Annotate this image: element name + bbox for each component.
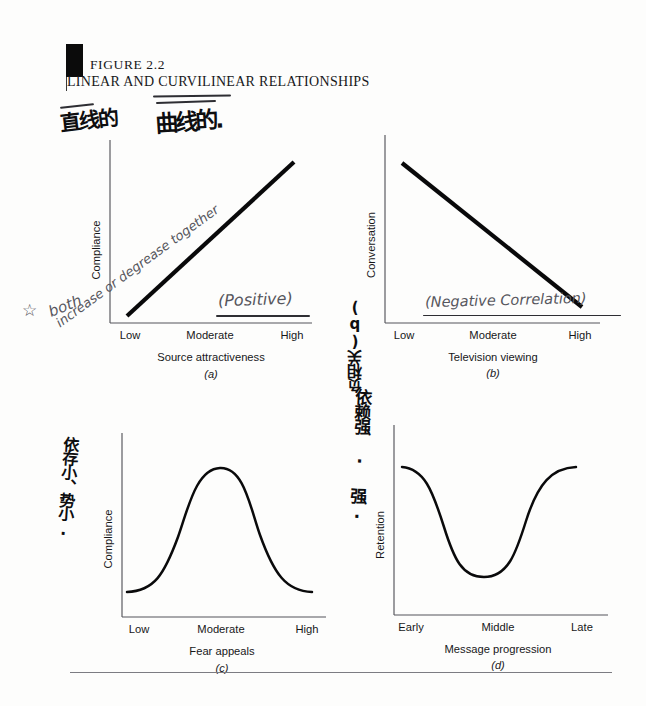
chart-c-tick-moderate: Moderate bbox=[197, 623, 244, 635]
chart-d-panel-letter: (d) bbox=[491, 659, 505, 671]
chart-c-data-curve bbox=[127, 468, 312, 592]
chart-c-tick-high: High bbox=[295, 623, 318, 635]
chart-panel-a: Compliance Low Moderate High Source attr… bbox=[84, 138, 324, 378]
figure-header: FIGURE 2.2 LINEAR AND CURVILINEAR RELATI… bbox=[66, 44, 466, 98]
chart-b-data-line bbox=[402, 163, 582, 307]
chart-d-tick-early: Early bbox=[398, 621, 424, 633]
chart-panel-b: Conversation Low Moderate High Televisio… bbox=[360, 130, 610, 378]
header-black-bar-icon bbox=[66, 44, 83, 77]
chart-a-data-line bbox=[127, 162, 294, 316]
chart-d-x-axis-label: Message progression bbox=[445, 643, 552, 655]
figure-title: LINEAR AND CURVILINEAR RELATIONSHIPS bbox=[67, 74, 370, 90]
chart-a-tick-low: Low bbox=[120, 329, 141, 341]
chart-a-y-axis-label: Compliance bbox=[90, 220, 102, 279]
handwritten-underline-positive bbox=[216, 315, 310, 317]
chart-a-x-axis-label: Source attractiveness bbox=[157, 351, 265, 363]
chart-d-data-curve bbox=[402, 467, 576, 577]
chart-d-y-axis-label: Retention bbox=[374, 511, 386, 559]
handwritten-star-a: ☆ bbox=[22, 300, 37, 320]
handwritten-note-b-vertical-cjk: 负相关(b) bbox=[344, 300, 365, 393]
handwritten-note-curvilinear-cjk: 曲线的. bbox=[154, 101, 222, 140]
chart-b-tick-high: High bbox=[568, 329, 591, 341]
chart-d-tick-middle: Middle bbox=[482, 621, 515, 633]
chart-panel-d: Retention Early Middle Late Message prog… bbox=[368, 417, 618, 669]
chart-d-tick-late: Late bbox=[571, 621, 593, 633]
chart-c-tick-low: Low bbox=[129, 623, 150, 635]
chart-b-tick-low: Low bbox=[394, 329, 415, 341]
chart-a-tick-high: High bbox=[280, 329, 303, 341]
chart-a-panel-letter: (a) bbox=[204, 368, 218, 380]
chart-c-x-axis-label: Fear appeals bbox=[189, 645, 255, 657]
figure-page: FIGURE 2.2 LINEAR AND CURVILINEAR RELATI… bbox=[0, 0, 646, 706]
handwritten-note-both: both bbox=[46, 291, 84, 320]
figure-number: FIGURE 2.2 bbox=[90, 57, 165, 73]
handwritten-note-c-vertical-cjk: 依存小、势小. bbox=[51, 435, 82, 537]
chart-panel-c: Compliance Low Moderate High Fear appeal… bbox=[96, 425, 336, 673]
chart-c-y-axis-label: Compliance bbox=[102, 509, 114, 568]
chart-b-tick-moderate: Moderate bbox=[469, 329, 516, 341]
page-bottom-rule bbox=[70, 672, 612, 673]
chart-b-panel-letter: (b) bbox=[486, 367, 500, 379]
chart-b-y-axis-label: Conversation bbox=[365, 212, 377, 278]
chart-a-tick-moderate: Moderate bbox=[186, 329, 233, 341]
chart-b-x-axis-label: Television viewing bbox=[448, 351, 538, 363]
